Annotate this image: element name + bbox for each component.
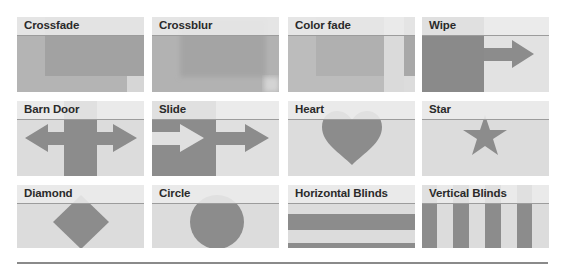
- tile-label: Wipe: [429, 19, 456, 31]
- tile-label: Vertical Blinds: [429, 187, 507, 199]
- transition-tile-wipe[interactable]: Wipe: [422, 17, 549, 92]
- transition-tile-crossfade[interactable]: Crossfade: [17, 17, 144, 92]
- tile-label: Heart: [295, 103, 324, 115]
- bottom-divider: [17, 262, 548, 264]
- tile-label: Horizontal Blinds: [295, 187, 388, 199]
- transition-tile-star[interactable]: Star: [422, 101, 549, 176]
- transition-tile-diamond[interactable]: Diamond: [17, 185, 144, 248]
- tile-label: Circle: [159, 187, 190, 199]
- transition-tile-vertical-blinds[interactable]: Vertical Blinds: [422, 185, 549, 248]
- transition-tile-color-fade[interactable]: Color fade: [288, 17, 415, 92]
- tile-label: Crossblur: [159, 19, 212, 31]
- tile-label: Color fade: [295, 19, 351, 31]
- tile-label: Barn Door: [24, 103, 79, 115]
- transition-tile-slide[interactable]: Slide: [152, 101, 279, 176]
- tile-label: Star: [429, 103, 451, 115]
- transition-tile-heart[interactable]: Heart: [288, 101, 415, 176]
- tile-label: Diamond: [24, 187, 73, 199]
- transition-tile-crossblur[interactable]: Crossblur: [152, 17, 279, 92]
- transition-tile-barn-door[interactable]: Barn Door: [17, 101, 144, 176]
- tile-label: Slide: [159, 103, 186, 115]
- transition-tile-circle[interactable]: Circle: [152, 185, 279, 248]
- tile-label: Crossfade: [24, 19, 79, 31]
- transition-tile-horizontal-blinds[interactable]: Horizontal Blinds: [288, 185, 415, 248]
